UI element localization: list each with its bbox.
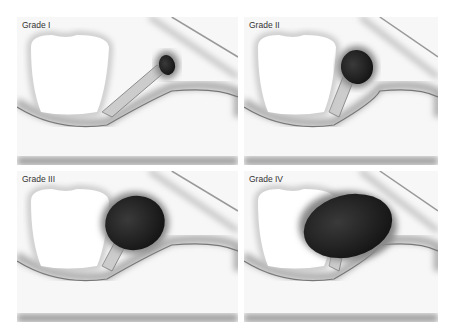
illustration <box>17 171 238 322</box>
grade-label: Grade I <box>22 20 50 30</box>
grade-panel: Grade I <box>17 17 238 165</box>
grade-panel: Grade IV <box>244 171 438 322</box>
illustration <box>244 171 438 322</box>
grade-label: Grade IV <box>249 174 283 184</box>
illustration <box>244 17 438 165</box>
grade-panel: Grade II <box>244 17 438 165</box>
grade-label: Grade II <box>249 20 280 30</box>
illustration <box>17 17 238 165</box>
grade-panel: Grade III <box>17 171 238 322</box>
grade-label: Grade III <box>22 174 55 184</box>
